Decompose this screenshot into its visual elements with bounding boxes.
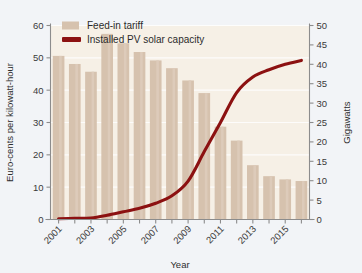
left-axis-tick-label: 0 [38, 214, 43, 225]
right-axis-tick-label: 15 [317, 156, 328, 167]
right-axis-tick-label: 10 [317, 175, 328, 186]
x-axis-title: Year [170, 259, 189, 270]
bar-highlight [189, 80, 192, 219]
right-axis-tick-label: 45 [317, 39, 328, 50]
bar-2011 [215, 127, 227, 220]
chart-figure: 0102030405060Euro-cents per kilowatt-hou… [0, 0, 362, 273]
right-axis-tick-label: 20 [317, 136, 328, 147]
bar-2012 [231, 141, 243, 220]
right-axis-title: Gigawatts [341, 101, 352, 143]
bar-2014 [263, 176, 275, 219]
bar-highlight [124, 43, 127, 219]
bar-highlight [270, 176, 273, 219]
bar-2002 [69, 64, 81, 220]
bar-2016 [296, 181, 308, 219]
bar-2007 [150, 60, 162, 219]
right-axis-tick-label: 40 [317, 59, 328, 70]
bar-2003 [85, 72, 97, 220]
bar-highlight [59, 56, 62, 220]
bar-2001 [53, 56, 65, 220]
right-axis-tick-label: 50 [317, 20, 328, 31]
bar-2013 [247, 165, 259, 219]
bar-highlight [221, 127, 224, 220]
left-axis-tick-label: 60 [33, 20, 44, 31]
bar-highlight [237, 141, 240, 220]
left-axis-tick-label: 50 [33, 52, 44, 63]
bar-highlight [205, 93, 208, 219]
left-axis-tick-label: 30 [33, 117, 44, 128]
legend-swatch-bar [62, 22, 79, 30]
bar-highlight [156, 60, 159, 219]
bar-highlight [108, 34, 111, 220]
right-axis-tick-label: 0 [317, 214, 322, 225]
bar-highlight [253, 165, 256, 219]
dual-axis-bar-line-chart: 0102030405060Euro-cents per kilowatt-hou… [0, 0, 362, 273]
right-axis-tick-label: 35 [317, 78, 328, 89]
bar-highlight [75, 64, 78, 220]
legend-swatch-line [62, 37, 81, 42]
left-axis-title: Euro-cents per kilowatt-hour [4, 63, 15, 182]
legend-label-installed-pv-solar-capacity: Installed PV solar capacity [87, 34, 204, 45]
left-axis-tick-label: 40 [33, 85, 44, 96]
left-axis-tick-label: 20 [33, 149, 44, 160]
bar-highlight [92, 72, 95, 220]
right-axis-tick-label: 25 [317, 117, 328, 128]
right-axis-tick-label: 30 [317, 98, 328, 109]
bar-2015 [279, 179, 291, 219]
bar-highlight [302, 181, 305, 219]
right-axis-tick-label: 5 [317, 195, 322, 206]
left-axis-tick-label: 10 [33, 182, 44, 193]
bar-2006 [134, 52, 146, 219]
bar-2005 [118, 43, 130, 219]
bar-highlight [286, 179, 289, 219]
bar-highlight [140, 52, 143, 219]
bar-2009 [182, 80, 194, 219]
bar-2004 [101, 34, 113, 220]
legend-label-feed-in-tariff: Feed-in tariff [87, 20, 143, 31]
